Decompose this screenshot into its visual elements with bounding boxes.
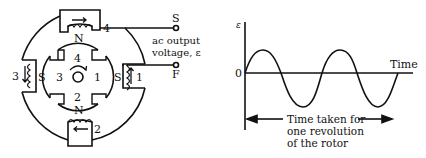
figure-canvas: 4 2 3 1 N N S S 4 2 3 1 S F ac output vo… <box>0 0 426 158</box>
bottom-pole-2 <box>68 120 92 146</box>
coil-label-left: 3 <box>12 70 19 83</box>
left-arrowhead-icon <box>247 116 257 123</box>
x-axis-label: Time <box>390 58 418 71</box>
rotation-arrowhead-icon <box>83 66 87 70</box>
coil-label-bottom: 2 <box>94 123 101 136</box>
rotor-label-top: 4 <box>74 52 81 65</box>
pole-label-right: S <box>114 71 122 84</box>
left-coil-arrow-icon <box>23 66 28 82</box>
right-arrowhead-icon <box>382 116 392 123</box>
output-label-line1: ac output <box>152 35 200 46</box>
rotor-label-bottom: 2 <box>74 91 81 104</box>
rotor-shaft <box>73 72 83 82</box>
pole-label-left: S <box>38 71 46 84</box>
output-label-line2: voltage, ε <box>151 47 201 58</box>
lead-finish <box>123 64 174 66</box>
terminal-s <box>174 26 179 31</box>
annotation-line1: Time taken for <box>287 113 366 125</box>
annotation-line3: of the rotor <box>287 137 349 149</box>
pole-label-top: N <box>74 32 84 45</box>
pole-label-bottom: N <box>74 104 84 117</box>
top-coil-arrow-icon <box>72 18 86 23</box>
top-pole-4 <box>60 10 100 32</box>
rotor-notch-tl <box>50 50 64 60</box>
rotor-notch-tr <box>92 50 106 60</box>
origin-label: 0 <box>235 67 242 80</box>
coil-label-right: 1 <box>136 71 143 84</box>
generator-labels: 4 2 3 1 N N S S 4 2 3 1 S F ac output vo… <box>12 12 201 136</box>
rotor-notch-bl <box>50 94 64 104</box>
rotor-label-right: 1 <box>94 71 101 84</box>
y-axis-label: ε <box>236 20 241 30</box>
left-coil <box>28 64 31 88</box>
bottom-coil-arrow-icon <box>74 127 88 132</box>
rotor-notch-br <box>92 94 106 104</box>
terminal-f <box>174 63 179 68</box>
rotor-label-left: 3 <box>56 71 63 84</box>
voltage-waveform <box>245 50 398 107</box>
annotation-line2: one revolution <box>287 125 364 137</box>
terminal-f-label: F <box>172 68 180 81</box>
terminal-s-label: S <box>172 12 180 25</box>
coil-label-top: 4 <box>103 22 110 35</box>
voltage-chart: ε 0 Time Time taken for one revolution o… <box>235 20 418 149</box>
